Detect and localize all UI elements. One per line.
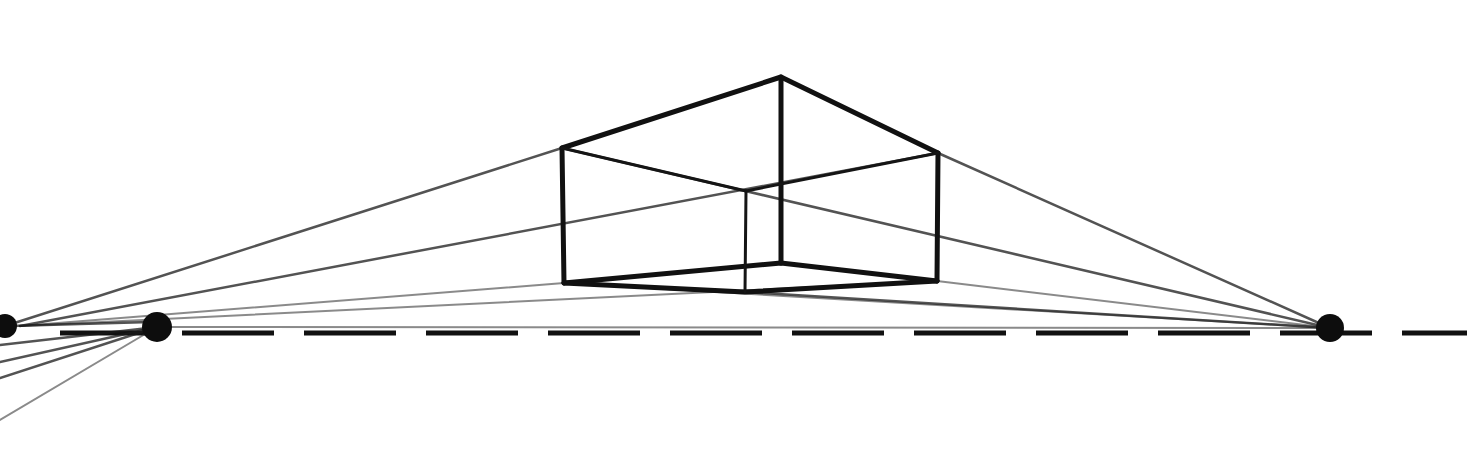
perspective-drawing <box>0 0 1467 458</box>
left-vanishing-point <box>142 312 172 342</box>
paper-background <box>0 0 1467 458</box>
right-vanishing-point <box>1316 314 1344 342</box>
box-back-vertical <box>745 191 746 292</box>
box-left-vertical <box>562 148 564 283</box>
box-right-vertical <box>937 153 938 281</box>
